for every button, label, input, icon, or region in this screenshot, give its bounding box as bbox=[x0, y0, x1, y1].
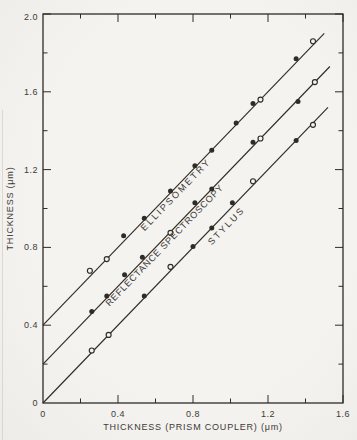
y-tick-label: 2.0 bbox=[24, 12, 38, 22]
stylus-data-point-filled bbox=[142, 294, 147, 299]
ellipsometry-data-point-filled bbox=[234, 120, 239, 125]
y-tick-label: 0.4 bbox=[24, 320, 38, 330]
stylus-data-point-open bbox=[89, 348, 94, 353]
ellipsometry-data-point-open bbox=[87, 268, 92, 273]
thickness-chart-svg: 00.40.81.21.600.40.81.21.62.0THICKNESS (… bbox=[0, 0, 357, 440]
stylus-data-point-open bbox=[251, 179, 256, 184]
y-tick-label: 0 bbox=[32, 398, 38, 408]
ellipsometry-data-point-filled bbox=[209, 148, 214, 153]
ellipsometry-data-point-filled bbox=[121, 233, 126, 238]
ellipsometry-data-point-open bbox=[104, 257, 109, 262]
stylus-data-point-filled bbox=[230, 200, 235, 205]
ellipsometry-data-point-filled bbox=[251, 101, 256, 106]
thickness-comparison-chart: 00.40.81.21.600.40.81.21.62.0THICKNESS (… bbox=[0, 0, 357, 440]
stylus-data-point-filled bbox=[294, 138, 299, 143]
reflectance-spectroscopy-data-point-filled bbox=[296, 99, 301, 104]
ellipsometry-series-label: ELLIPSOMETRY bbox=[139, 156, 213, 233]
ellipsometry-data-point-open bbox=[258, 97, 263, 102]
y-axis-label: THICKNESS (μm) bbox=[5, 167, 15, 251]
reflectance-spectroscopy-data-point-open bbox=[312, 80, 317, 85]
y-tick-label: 0.8 bbox=[24, 242, 38, 252]
stylus-fit-line bbox=[43, 107, 328, 403]
x-tick-label: 0 bbox=[40, 409, 46, 419]
ellipsometry-data-point-filled bbox=[294, 56, 299, 61]
ellipsometry-data-point-open bbox=[311, 39, 316, 44]
stylus-data-point-open bbox=[311, 122, 316, 127]
reflectance-spectroscopy-data-point-filled bbox=[251, 140, 256, 145]
x-tick-label: 1.2 bbox=[261, 409, 275, 419]
stylus-data-point-filled bbox=[191, 244, 196, 249]
x-axis-label: THICKNESS (PRISM COUPLER) (μm) bbox=[103, 422, 283, 432]
scanned-figure-page: 00.40.81.21.600.40.81.21.62.0THICKNESS (… bbox=[0, 0, 357, 440]
y-tick-label: 1.6 bbox=[24, 87, 38, 97]
x-tick-label: 0.4 bbox=[111, 409, 125, 419]
x-tick-label: 1.6 bbox=[336, 409, 350, 419]
x-tick-label: 0.8 bbox=[186, 409, 200, 419]
reflectance-spectroscopy-data-point-open bbox=[258, 136, 263, 141]
stylus-data-point-open bbox=[168, 264, 173, 269]
reflectance-spectroscopy-data-point-filled bbox=[89, 309, 94, 314]
stylus-data-point-open bbox=[106, 332, 111, 337]
stylus-data-point-filled bbox=[209, 225, 214, 230]
y-tick-label: 1.2 bbox=[24, 165, 38, 175]
